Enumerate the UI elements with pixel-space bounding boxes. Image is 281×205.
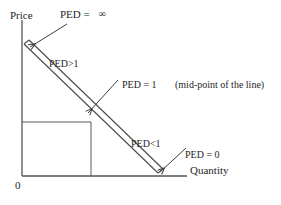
- demand-curve-top-cap: [24, 40, 29, 44]
- origin-label: 0: [15, 180, 21, 191]
- pointer-ped-infinite: [30, 24, 67, 47]
- annotation-ped-infinite-text: PED =: [60, 8, 90, 20]
- pointer-ped-equals-zero: [160, 148, 186, 172]
- annotation-ped-equals-zero: PED = 0: [185, 150, 220, 160]
- annotation-ped-less-than-one: PED<1: [131, 139, 161, 149]
- annotation-ped-greater-than-one: PED>1: [49, 59, 79, 69]
- annotation-midpoint-note: (mid-point of the line): [175, 80, 264, 90]
- x-axis-label: Quantity: [190, 165, 229, 176]
- infinity-icon: ∞: [90, 9, 106, 19]
- y-axis-label: Price: [10, 10, 33, 21]
- diagram-canvas: [0, 0, 281, 205]
- pointer-ped-equals-one: [88, 80, 118, 113]
- annotation-ped-infinite: PED =∞: [60, 9, 106, 20]
- ped-diagram-figure: Price Quantity 0 PED =∞ PED>1 PED = 1 (m…: [0, 0, 281, 205]
- annotation-ped-equals-one: PED = 1: [122, 80, 157, 90]
